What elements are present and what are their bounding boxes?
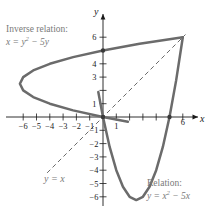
x-axis-arrow bbox=[193, 115, 199, 120]
y-tick-label-neg6: −6 bbox=[89, 193, 98, 202]
graph-canvas: x y −6 −5 −4 −3 −2 −1 1 6 6 4 3 1 −1 −2 … bbox=[0, 0, 219, 214]
y-tick-label-6: 6 bbox=[92, 33, 96, 42]
marked-point-5-0 bbox=[167, 115, 171, 119]
x-tick-label-neg6: −6 bbox=[19, 122, 28, 131]
y-tick-label-neg2: −2 bbox=[89, 140, 98, 149]
x-tick-label-neg2: −2 bbox=[72, 122, 81, 131]
y-tick-label-4: 4 bbox=[92, 60, 97, 69]
y-tick-label-neg1: −1 bbox=[89, 126, 98, 135]
x-tick-label-neg4: −4 bbox=[45, 122, 55, 131]
math-figure: x y −6 −5 −4 −3 −2 −1 1 6 6 4 3 1 −1 −2 … bbox=[0, 0, 219, 214]
y-axis-arrow bbox=[101, 14, 106, 20]
marked-point-origin bbox=[101, 115, 105, 119]
y-tick-label-3: 3 bbox=[92, 73, 96, 82]
y-tick-label-neg5: −5 bbox=[89, 180, 98, 189]
identity-line-y-equals-x bbox=[47, 35, 185, 173]
x-tick-label-1: 1 bbox=[114, 122, 118, 131]
x-axis-label: x bbox=[199, 113, 205, 124]
marked-point-0-5 bbox=[101, 48, 105, 52]
y-tick-label-neg4: −4 bbox=[89, 166, 99, 175]
x-tick-label-neg3: −3 bbox=[59, 122, 68, 131]
y-tick-label-1: 1 bbox=[92, 100, 96, 109]
y-tick-label-neg3: −3 bbox=[89, 153, 98, 162]
x-tick-label-neg5: −5 bbox=[32, 122, 41, 131]
x-tick-label-6: 6 bbox=[181, 118, 185, 127]
y-axis-label: y bbox=[93, 6, 99, 17]
